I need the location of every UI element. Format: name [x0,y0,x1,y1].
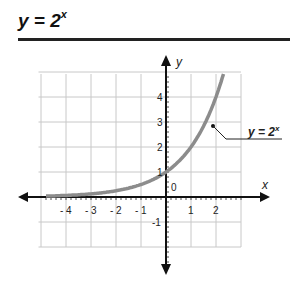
svg-text:- 1: - 1 [135,205,147,216]
svg-text:- 3: - 3 [85,205,97,216]
y-axis-down-arrow [161,264,171,275]
exponential-curve [46,74,224,196]
exponential-chart: - 4- 3- 2- 1124321-1 x y 0 y = 2x [0,0,299,284]
origin-label: 0 [171,182,177,193]
svg-text:3: 3 [157,117,163,128]
callout-label: y = 2x [247,124,280,139]
y-axis-label: y [175,55,183,69]
x-axis-left-arrow [18,192,28,202]
svg-text:4: 4 [157,92,163,103]
svg-text:2: 2 [213,205,219,216]
x-axis-label: x [261,178,269,192]
tick-labels: - 4- 3- 2- 1124321-1 [60,92,219,228]
svg-text:2: 2 [157,142,163,153]
svg-text:- 2: - 2 [110,205,122,216]
grid [39,72,242,247]
y-axis-up-arrow [161,55,171,66]
svg-text:- 4: - 4 [60,205,72,216]
svg-text:-1: -1 [152,217,161,228]
svg-text:1: 1 [157,167,163,178]
x-axis-right-arrow [260,192,270,202]
svg-text:1: 1 [188,205,194,216]
